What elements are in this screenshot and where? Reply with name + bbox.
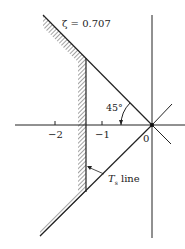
zeta-line-lower-ext — [152, 125, 171, 144]
tick-label-minus-1: −1 — [95, 130, 110, 140]
ts-symbol: T — [108, 173, 115, 184]
angle-label: 45° — [106, 103, 123, 113]
zeta-line-upper-ext — [152, 104, 172, 125]
hatched-region — [40, 15, 86, 237]
zeta-label: ζ = 0.707 — [62, 19, 111, 29]
tick-label-origin: 0 — [143, 134, 149, 144]
ts-line-word: line — [118, 173, 140, 184]
s-plane-diagram — [0, 0, 185, 249]
tick-label-minus-2: −2 — [48, 130, 63, 140]
zeta-line-upper — [43, 15, 152, 125]
ts-line-label: Ts line — [108, 174, 140, 186]
origin-point — [150, 123, 154, 127]
angle-arrowhead — [119, 120, 123, 125]
